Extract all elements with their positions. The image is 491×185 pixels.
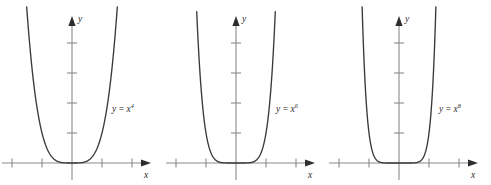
y-axis-label: y xyxy=(404,14,410,24)
curve-equation-label: y=x8 xyxy=(438,102,462,114)
figure-three-even-power-curves: yxy=x4 yxy=x6 yxy=x8 xyxy=(0,0,491,185)
curve-equation-label: y=x4 xyxy=(111,102,134,114)
x-axis-arrow-icon xyxy=(305,159,315,166)
y-axis-arrow-icon xyxy=(68,16,75,26)
curve-equation-label: y=x6 xyxy=(275,102,299,114)
y-axis-label: y xyxy=(241,14,247,24)
y-axis-arrow-icon xyxy=(395,16,402,26)
plot-panel-x8: yxy=x8 xyxy=(327,0,491,185)
x-axis-label: x xyxy=(470,170,476,180)
y-axis-arrow-icon xyxy=(232,16,239,26)
x-axis-arrow-icon xyxy=(468,159,478,166)
coordinate-plot: yxy=x4 xyxy=(0,0,164,185)
coordinate-plot: yxy=x8 xyxy=(327,0,491,185)
plot-panel-x4: yxy=x4 xyxy=(0,0,164,185)
x-axis-label: x xyxy=(143,170,149,180)
coordinate-plot: yxy=x6 xyxy=(164,0,328,185)
y-axis-label: y xyxy=(77,14,83,24)
x-axis-label: x xyxy=(307,170,313,180)
plot-panel-x6: yxy=x6 xyxy=(164,0,328,185)
x-axis-arrow-icon xyxy=(141,159,151,166)
